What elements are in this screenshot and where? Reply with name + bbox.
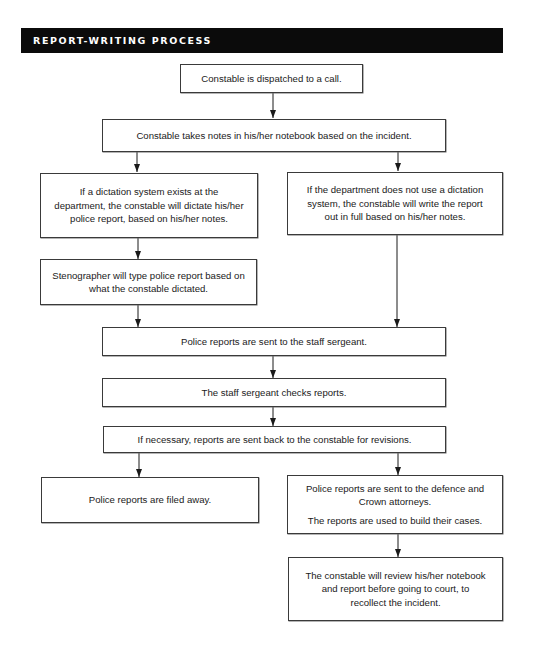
- step-stenographer-text: Stenographer will type police report bas…: [49, 269, 248, 296]
- step-revisions: If necessary, reports are sent back to t…: [103, 426, 446, 453]
- step-no-dictation: If the department does not use a dictati…: [287, 172, 503, 235]
- step-filed-away: Police reports are filed away.: [41, 477, 259, 523]
- header-bar: REPORT-WRITING PROCESS: [21, 28, 503, 53]
- connector-arrows: [0, 0, 535, 651]
- step-revisions-text: If necessary, reports are sent back to t…: [138, 433, 412, 447]
- step-no-dictation-text: If the department does not use a dictati…: [306, 183, 484, 224]
- step-sergeant-checks: The staff sergeant checks reports.: [102, 378, 446, 407]
- step-sent-to-attorneys: Police reports are sent to the defence a…: [287, 475, 503, 534]
- step-dispatched: Constable is dispatched to a call.: [180, 64, 363, 93]
- step-sergeant-checks-text: The staff sergeant checks reports.: [202, 386, 347, 400]
- step-stenographer: Stenographer will type police report bas…: [40, 259, 257, 305]
- step-review-before-court-text: The constable will review his/her notebo…: [303, 569, 488, 610]
- step-sent-to-attorneys-text: Police reports are sent to the defence a…: [302, 482, 488, 509]
- step-filed-away-text: Police reports are filed away.: [89, 493, 211, 507]
- step-sent-to-sergeant: Police reports are sent to the staff ser…: [102, 327, 446, 356]
- step-review-before-court: The constable will review his/her notebo…: [288, 557, 503, 621]
- step-sent-to-sergeant-text: Police reports are sent to the staff ser…: [181, 335, 367, 349]
- step-dictation-exists-text: If a dictation system exists at the depa…: [53, 185, 245, 226]
- step-sent-to-attorneys-text2: The reports are used to build their case…: [308, 514, 482, 528]
- step-takes-notes-text: Constable takes notes in his/her noteboo…: [136, 129, 411, 143]
- diagram-title: REPORT-WRITING PROCESS: [33, 35, 212, 46]
- step-takes-notes: Constable takes notes in his/her noteboo…: [102, 119, 446, 152]
- step-dictation-exists: If a dictation system exists at the depa…: [40, 173, 258, 238]
- step-dispatched-text: Constable is dispatched to a call.: [201, 72, 341, 86]
